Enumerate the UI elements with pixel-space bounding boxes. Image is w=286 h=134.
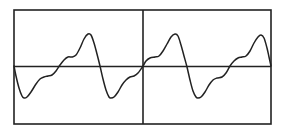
waveform-diagram [0, 0, 286, 134]
waveform-plot [0, 0, 286, 134]
